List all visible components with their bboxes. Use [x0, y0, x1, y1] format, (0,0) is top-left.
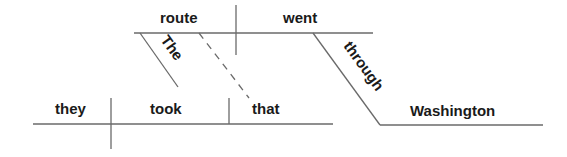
word-went: went	[282, 9, 317, 26]
word-route: route	[160, 9, 198, 26]
word-they: they	[55, 100, 87, 117]
word-through: through	[341, 38, 388, 94]
word-washington: Washington	[410, 102, 495, 119]
word-that: that	[252, 100, 280, 117]
word-took: took	[150, 100, 182, 117]
relative-connector-dashed	[199, 33, 249, 98]
sentence-diagram: route went they took that Washington The…	[0, 0, 567, 157]
word-the: The	[158, 32, 187, 64]
